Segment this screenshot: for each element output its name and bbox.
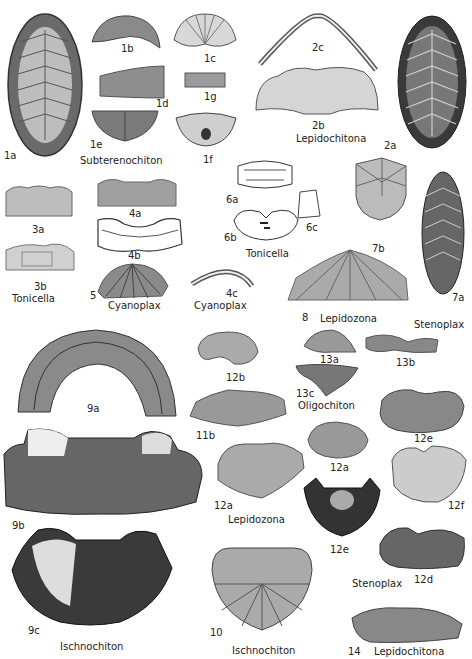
- genus-label-lepidozona-11: Lepidozona: [228, 514, 285, 525]
- figure-label-9a: 9a: [87, 403, 100, 414]
- fossil-figure-1g: [184, 72, 226, 88]
- figure-label-1f: 1f: [203, 154, 213, 165]
- fossil-figure-3b: [4, 240, 76, 276]
- fossil-figure-12a: [306, 420, 370, 460]
- figure-label-10: 10: [210, 627, 223, 638]
- genus-label-lepidochitona-2: Lepidochitona: [296, 133, 366, 144]
- figure-label-1c: 1c: [204, 53, 216, 64]
- figure-label-2a: 2a: [384, 140, 397, 151]
- figure-label-2c: 2c: [312, 42, 324, 53]
- figure-label-14: 14: [348, 646, 361, 657]
- figure-label-12b: 12b: [226, 372, 245, 383]
- fossil-figure-12c: [378, 386, 468, 438]
- genus-label-lepidozona-8: Lepidozona: [320, 313, 377, 324]
- fossil-figure-1d: [98, 62, 168, 100]
- figure-label-12a: 12a: [330, 462, 349, 473]
- figure-label-13b: 13b: [396, 357, 415, 368]
- figure-label-5: 5: [90, 290, 96, 301]
- fossil-figure-4c: [190, 266, 254, 288]
- fossil-figure-5: [96, 262, 170, 302]
- figure-label-8: 8: [302, 312, 308, 323]
- fossil-figure-12f: [388, 442, 470, 506]
- genus-label-stenoplax-12: Stenoplax: [352, 578, 402, 589]
- fossil-figure-7b: [352, 156, 410, 222]
- figure-label-9c: 9c: [28, 625, 40, 636]
- figure-label-12e: 12e: [330, 544, 349, 555]
- fossil-figure-1a: [6, 12, 84, 158]
- fossil-figure-12d: [378, 524, 468, 572]
- fossil-figure-1c: [172, 10, 238, 52]
- fossil-figure-6b: [230, 204, 302, 244]
- genus-label-ischnochiton-9: Ischnochiton: [60, 641, 123, 652]
- figure-label-6c: 6c: [306, 222, 318, 233]
- figure-label-2b: 2b: [312, 120, 325, 131]
- genus-label-tonicella-3: Tonicella: [12, 293, 55, 304]
- figure-label-12f: 12f: [448, 500, 464, 511]
- fossil-figure-1e: [90, 105, 160, 143]
- fossil-figure-10: [208, 544, 316, 632]
- fossil-figure-1f: [174, 106, 238, 148]
- figure-label-1e: 1e: [90, 139, 103, 150]
- figure-label-11b: 12a: [214, 500, 233, 511]
- figure-label-4c: 4c: [226, 288, 238, 299]
- genus-label-cyanoplax-4c: Cyanoplax: [194, 300, 247, 311]
- fossil-figure-14: [350, 604, 464, 646]
- fossil-figure-6c: [294, 188, 322, 220]
- figure-label-13c: 13c: [296, 388, 314, 399]
- genus-label-stenoplax-7: Stenoplax: [414, 319, 464, 330]
- fossil-figure-11b: [214, 440, 308, 502]
- figure-label-4b: 4b: [128, 250, 141, 261]
- fossil-figure-9c: [10, 526, 174, 628]
- genus-label-tonicella-6: Tonicella: [246, 248, 289, 259]
- genus-label-lepidochitona-14: Lepidochitona: [374, 646, 444, 657]
- fossil-figure-3a: [4, 182, 74, 220]
- figure-label-1b: 1b: [121, 43, 134, 54]
- figure-label-6b: 6b: [224, 232, 237, 243]
- fossil-figure-4b: [94, 214, 184, 254]
- fossil-figure-2b: [254, 60, 380, 116]
- genus-label-subterenochiton: Subterenochiton: [80, 155, 163, 166]
- figure-label-11a: 11b: [196, 430, 215, 441]
- fossil-figure-13a: [302, 328, 358, 356]
- figure-label-1g: 1g: [204, 91, 217, 102]
- figure-label-1a: 1a: [4, 150, 17, 161]
- fossil-figure-4a: [96, 176, 178, 210]
- figure-label-7a: 7a: [452, 292, 465, 303]
- fossil-figure-7a: [420, 170, 466, 296]
- fossil-figure-6a: [234, 156, 296, 192]
- figure-label-12d: 12d: [414, 574, 433, 585]
- fossil-figure-12b: [194, 328, 262, 370]
- fossil-figure-2a: [396, 14, 468, 150]
- figure-label-3a: 3a: [32, 224, 45, 235]
- fossil-figure-11a: [188, 386, 288, 428]
- genus-label-oligochiton: Oligochiton: [298, 400, 355, 411]
- fossil-figure-13b: [364, 332, 440, 356]
- genus-label-ischnochiton-10: Ischnochiton: [232, 645, 295, 656]
- figure-label-3b: 3b: [34, 281, 47, 292]
- fossil-figure-8: [286, 248, 410, 304]
- fossil-figure-12e: [302, 474, 382, 540]
- genus-label-cyanoplax-5: Cyanoplax: [108, 300, 161, 311]
- fossil-figure-9b: [2, 426, 204, 518]
